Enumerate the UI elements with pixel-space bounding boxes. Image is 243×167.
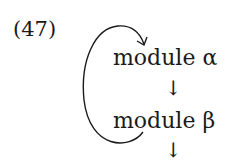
- loop-arrow-icon: [0, 0, 243, 167]
- module-alpha-label: module α: [113, 45, 217, 70]
- module-beta-label: module β: [113, 108, 215, 133]
- down-arrow-icon: ↓: [165, 138, 182, 162]
- down-arrow-icon: ↓: [165, 76, 182, 100]
